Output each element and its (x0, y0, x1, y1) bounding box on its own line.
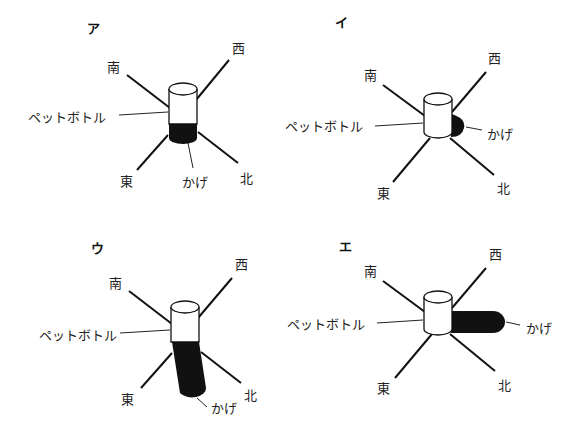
bottle-leader (119, 112, 168, 115)
axis-east (141, 353, 172, 388)
axis-east (395, 334, 432, 378)
panel-title: エ (339, 239, 352, 254)
bottle-top (171, 301, 199, 313)
shadow-leader (506, 322, 520, 325)
bottle-leader (375, 123, 423, 126)
axis-south (129, 291, 172, 324)
shadow-leader (197, 398, 207, 407)
axis-west (452, 72, 486, 112)
panel-title: ウ (91, 241, 104, 256)
bottle-leader (377, 320, 423, 323)
axis-east (393, 138, 430, 182)
shadow-leader (188, 143, 193, 168)
bottle-top (424, 291, 452, 303)
label-north: 北 (240, 171, 253, 186)
label-shadow: かげ (182, 175, 208, 190)
shadow-shape (169, 124, 197, 144)
axis-west (196, 60, 229, 100)
label-east: 東 (121, 392, 134, 407)
label-shadow: かげ (487, 127, 513, 142)
panel-title: ア (87, 21, 100, 36)
panel-i: イ 南 西 東 北 ペットボトル かげ (285, 15, 513, 201)
label-east: 東 (377, 381, 390, 396)
label-north: 北 (497, 181, 510, 196)
shadow-shape (172, 342, 206, 397)
label-south: 南 (364, 264, 377, 279)
shadow-shape (451, 311, 505, 333)
axis-south (383, 85, 425, 116)
shadow-leader (466, 127, 482, 130)
axis-south (127, 75, 170, 108)
label-bottle: ペットボトル (285, 119, 363, 134)
label-north: 北 (498, 378, 511, 393)
label-west: 西 (489, 247, 502, 262)
bottle-top (169, 83, 197, 95)
panel-u: ウ 南 西 東 北 ペットボトル かげ (39, 241, 257, 416)
label-south: 南 (107, 60, 120, 75)
label-south: 南 (109, 276, 122, 291)
axis-north (201, 352, 241, 383)
label-bottle: ペットボトル (28, 110, 106, 125)
bottle-leader (120, 330, 170, 333)
panel-e: エ 南 西 東 北 ペットボトル かげ (287, 239, 552, 396)
axis-north (450, 334, 495, 371)
label-bottle: ペットボトル (39, 328, 117, 343)
panel-title: イ (335, 15, 348, 30)
axis-north (450, 138, 494, 175)
axis-east (137, 135, 168, 170)
label-south: 南 (364, 68, 377, 83)
axis-south (383, 281, 425, 312)
label-north: 北 (244, 388, 257, 403)
label-west: 西 (232, 41, 245, 56)
bottle-top (424, 93, 452, 105)
axis-north (198, 132, 238, 163)
label-shadow: かげ (211, 401, 237, 416)
label-west: 西 (235, 257, 248, 272)
label-east: 東 (377, 186, 390, 201)
axis-west (452, 268, 486, 308)
axis-west (198, 278, 232, 318)
label-shadow: かげ (526, 321, 552, 336)
label-bottle: ペットボトル (287, 317, 365, 332)
label-west: 西 (488, 51, 501, 66)
label-east: 東 (120, 174, 133, 189)
panel-a: ア 南 西 東 北 ペットボトル かげ (28, 21, 253, 190)
